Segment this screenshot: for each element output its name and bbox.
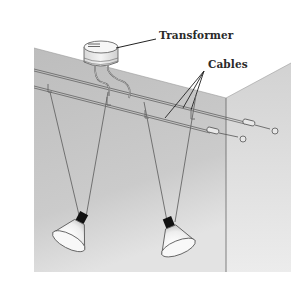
cable-lighting-diagram: Transformer Cables [0,0,308,297]
right-wall [226,63,291,272]
transformer-label: Transformer [159,29,233,41]
cables-label: Cables [208,58,248,70]
transformer-leader-line [116,39,156,48]
illustration-canvas [0,0,308,297]
